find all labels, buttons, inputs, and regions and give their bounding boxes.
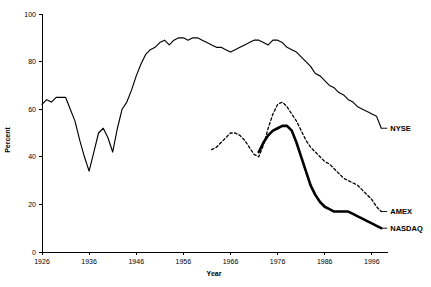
x-tick-label: 1936 bbox=[81, 258, 97, 265]
series-line-nyse bbox=[42, 38, 381, 171]
x-tick-label: 1996 bbox=[364, 258, 380, 265]
x-tick-label: 1986 bbox=[317, 258, 333, 265]
stock-exchange-share-chart: 020406080100 192619361946195619661976198… bbox=[0, 0, 431, 287]
axes-group bbox=[42, 14, 388, 252]
y-tick-label: 80 bbox=[28, 58, 36, 65]
x-tick-group: 19261936194619561966197619861996 bbox=[34, 252, 380, 265]
x-tick-label: 1966 bbox=[223, 258, 239, 265]
series-line-amex bbox=[212, 102, 382, 211]
y-tick-label: 40 bbox=[28, 153, 36, 160]
series-label-group: NYSEAMEXNASDAQ bbox=[381, 124, 423, 233]
series-label-amex: AMEX bbox=[390, 207, 412, 216]
x-tick-label: 1976 bbox=[270, 258, 286, 265]
y-tick-label: 60 bbox=[28, 106, 36, 113]
x-axis-title: Year bbox=[207, 270, 222, 277]
y-axis-title: Percent bbox=[4, 126, 11, 152]
x-tick-label: 1946 bbox=[128, 258, 144, 265]
x-tick-label: 1926 bbox=[34, 258, 50, 265]
series-label-nyse: NYSE bbox=[390, 124, 410, 133]
y-tick-group: 020406080100 bbox=[24, 11, 42, 256]
chart-canvas: 020406080100 192619361946195619661976198… bbox=[0, 0, 431, 287]
y-tick-label: 0 bbox=[32, 249, 36, 256]
x-tick-label: 1956 bbox=[176, 258, 192, 265]
y-tick-label: 100 bbox=[24, 11, 36, 18]
series-line-nasdaq bbox=[259, 126, 382, 228]
series-label-nasdaq: NASDAQ bbox=[390, 224, 423, 233]
series-group bbox=[42, 38, 381, 228]
y-tick-label: 20 bbox=[28, 201, 36, 208]
